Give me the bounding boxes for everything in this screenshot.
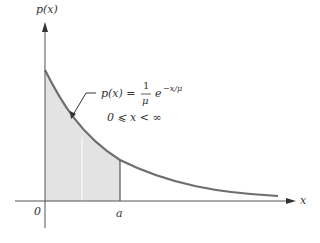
formula-exponent: −x/μ bbox=[163, 84, 182, 93]
formula-lhs: p(x) = bbox=[101, 87, 136, 100]
formula-numerator: 1 bbox=[143, 80, 149, 91]
leader-line bbox=[73, 93, 96, 115]
x-axis-arrow-icon bbox=[286, 198, 296, 204]
y-axis-arrow-icon bbox=[42, 22, 48, 32]
origin-label: 0 bbox=[34, 205, 41, 218]
x-axis-label: x bbox=[300, 194, 306, 207]
domain-label: 0 ⩽ x < ∞ bbox=[107, 111, 162, 124]
a-label: a bbox=[116, 207, 123, 220]
formula-exp-base: e bbox=[155, 87, 162, 100]
formula-denominator: μ bbox=[142, 95, 149, 106]
y-axis-label: p(x) bbox=[36, 3, 58, 16]
